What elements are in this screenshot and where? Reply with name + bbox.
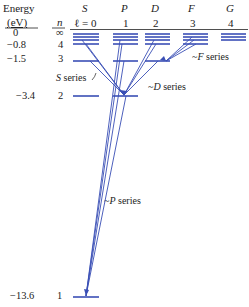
energy-level-diagram bbox=[0, 0, 249, 307]
arrowheads bbox=[84, 56, 166, 296]
label-leaders bbox=[92, 73, 96, 80]
energy-levels bbox=[73, 34, 246, 297]
transitions bbox=[82, 37, 196, 296]
